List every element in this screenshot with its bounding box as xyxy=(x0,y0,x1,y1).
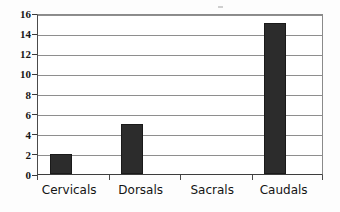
x-tick-mark xyxy=(180,175,181,180)
x-tick-label-sacrals: Sacrals xyxy=(190,183,233,197)
scan-artifact-speck xyxy=(218,6,223,8)
bar-dorsals xyxy=(121,124,143,174)
plot-area xyxy=(38,15,322,174)
y-tick-label: 2 xyxy=(26,149,32,160)
x-tick-mark xyxy=(37,175,38,180)
y-tick-label: 12 xyxy=(20,49,31,60)
bar-caudals xyxy=(264,23,286,174)
y-tick-label: 16 xyxy=(20,9,31,20)
x-axis-ticks xyxy=(37,175,323,181)
x-tick-mark xyxy=(109,175,110,180)
x-tick-mark xyxy=(252,175,253,180)
y-tick-label: 4 xyxy=(26,129,32,140)
y-tick-label: 14 xyxy=(20,29,31,40)
x-axis: CervicalsDorsalsSacralsCaudals xyxy=(37,183,323,205)
y-tick-label: 0 xyxy=(26,170,32,181)
plot-frame xyxy=(37,14,323,175)
y-tick-label: 8 xyxy=(26,89,32,100)
y-tick-label: 6 xyxy=(26,109,32,120)
x-tick-label-caudals: Caudals xyxy=(260,183,308,197)
bar-chart: 0246810121416 CervicalsDorsalsSacralsCau… xyxy=(0,0,340,212)
y-tick-label: 10 xyxy=(20,69,31,80)
y-axis: 0246810121416 xyxy=(0,0,37,212)
bar-cervicals xyxy=(50,154,72,174)
x-tick-label-dorsals: Dorsals xyxy=(118,183,163,197)
x-tick-label-cervicals: Cervicals xyxy=(42,183,97,197)
x-tick-mark xyxy=(322,175,323,180)
